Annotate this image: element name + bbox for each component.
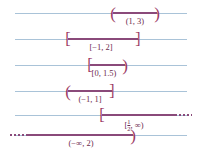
number-line-row-halfopen-0-1p5: [ ) [0, 1.5) — [0, 52, 201, 78]
interval-ray-segment — [102, 114, 175, 116]
left-infinity-dots — [10, 134, 26, 136]
interval-label: (−∞, 2) — [68, 139, 93, 148]
interval-number-line-figure: ( ) (1, 3) [ ] [−1, 2] [ ) [0, 1.5) ( ] … — [0, 0, 201, 152]
interval-ray-segment — [26, 134, 133, 136]
number-line-row-closed-neg1-2: [ ] [−1, 2] — [0, 26, 201, 52]
number-line-row-open-1-3: ( ) (1, 3) — [0, 0, 201, 26]
left-square-bracket: [ — [65, 31, 70, 47]
interval-segment — [68, 38, 138, 40]
right-parenthesis-bracket: ) — [122, 57, 128, 74]
interval-label: (1, 3) — [126, 17, 144, 26]
interval-segment — [90, 64, 125, 66]
interval-segment — [113, 12, 157, 14]
interval-label: (−1, 1] — [78, 95, 101, 104]
left-square-bracket: [ — [99, 107, 104, 123]
fraction-numerator: 1 — [127, 119, 130, 126]
number-line-row-ray-neginfinity-2: ) (−∞, 2) — [0, 128, 201, 152]
number-line-row-ray-half-infinity: [ [12, ∞) — [0, 104, 201, 128]
left-parenthesis-bracket: ( — [110, 5, 116, 22]
right-square-bracket: ] — [135, 31, 140, 47]
right-square-bracket: ] — [109, 83, 114, 99]
number-line-row-halfopen-neg1-1: ( ] (−1, 1] — [0, 78, 201, 104]
interval-label: [0, 1.5) — [92, 69, 117, 78]
interval-segment — [68, 90, 112, 92]
right-parenthesis-bracket: ) — [130, 127, 136, 144]
right-infinity-dots — [175, 114, 192, 116]
interval-label: [−1, 2] — [89, 43, 112, 52]
right-parenthesis-bracket: ) — [154, 5, 160, 22]
axis-line — [15, 13, 187, 14]
left-parenthesis-bracket: ( — [65, 83, 71, 100]
